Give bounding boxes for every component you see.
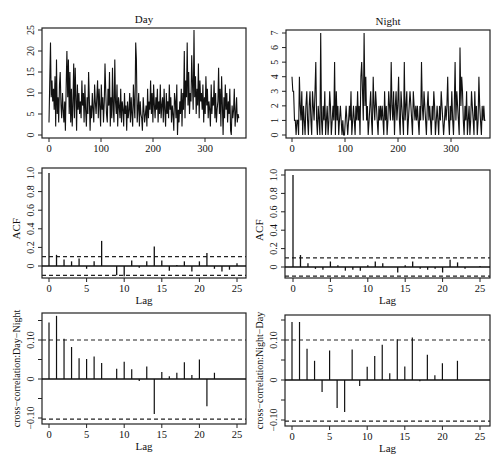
y-axis-label: cross−correlation:Day−Night: [11, 310, 22, 428]
x-tick-label: 10: [362, 431, 373, 442]
x-axis-label: Lag: [135, 440, 153, 452]
y-axis-label: cross−correlation:Night−Day: [254, 312, 265, 429]
y-tick-label: 0: [268, 265, 279, 270]
y-tick-label: 0.6: [25, 204, 36, 217]
x-axis-label: Lag: [379, 442, 397, 454]
series-line: [49, 30, 239, 135]
x-tick-label: 15: [157, 429, 168, 440]
y-tick-label: 0.8: [268, 187, 279, 200]
y-tick-label: 1: [269, 118, 280, 123]
x-tick-label: 300: [197, 143, 213, 154]
y-tick-label: 25: [25, 25, 36, 35]
y-tick-label: 0.4: [268, 224, 279, 237]
x-tick-label: 300: [443, 143, 459, 154]
y-tick-label: 0: [25, 377, 36, 382]
y-tick-label: 0: [268, 378, 279, 383]
ccf-night-day-panel: 0510152025−0.1000.10Lagcross−correlation…: [254, 312, 490, 454]
y-tick-label: 0.10: [25, 331, 36, 349]
y-tick-label: 5: [25, 112, 36, 117]
x-tick-label: 10: [119, 429, 130, 440]
x-tick-label: 0: [289, 431, 294, 442]
x-axis-label: Lag: [135, 294, 153, 306]
series-line: [292, 33, 485, 135]
y-axis-label: ACF: [253, 219, 265, 240]
x-tick-label: 20: [194, 429, 205, 440]
y-tick-label: 20: [25, 46, 36, 56]
panel-title: Day: [135, 13, 154, 25]
y-tick-label: 6: [269, 45, 280, 50]
x-tick-label: 0: [46, 429, 51, 440]
x-tick-label: 100: [337, 143, 353, 154]
y-tick-label: 0.2: [25, 241, 36, 254]
x-tick-label: 5: [84, 429, 89, 440]
y-tick-label: 5: [269, 60, 280, 65]
y-axis-label: ACF: [10, 218, 22, 239]
x-tick-label: 25: [475, 431, 486, 442]
x-tick-label: 10: [119, 283, 130, 294]
x-tick-label: 100: [93, 143, 109, 154]
y-tick-label: 1.0: [268, 169, 279, 182]
panel-title: Night: [375, 15, 400, 27]
y-tick-label: 0.6: [268, 206, 279, 219]
x-axis-label: Lag: [379, 294, 397, 306]
y-tick-label: 0.8: [25, 185, 36, 198]
x-tick-label: 200: [145, 143, 161, 154]
acf-night-panel: 051015202500.20.40.60.81.0LagACF: [253, 169, 490, 306]
y-tick-label: 2: [269, 103, 280, 108]
plot-frame: [42, 313, 246, 424]
plot-frame: [42, 168, 246, 278]
x-tick-label: 5: [328, 283, 333, 294]
x-tick-label: 200: [390, 143, 406, 154]
y-tick-label: 4: [269, 74, 280, 79]
x-tick-label: 15: [400, 431, 411, 442]
x-tick-label: 25: [232, 283, 243, 294]
acf-day-panel: 051015202500.20.40.60.81.0LagACF: [10, 167, 246, 306]
y-tick-label: 0.4: [25, 223, 36, 236]
day-series-panel: Day01002003000510152025: [25, 13, 246, 154]
x-tick-label: 0: [290, 283, 295, 294]
plot-frame: [285, 170, 490, 278]
x-tick-label: 5: [327, 431, 332, 442]
x-tick-label: 20: [437, 431, 448, 442]
y-tick-label: 0: [25, 133, 36, 138]
x-tick-label: 25: [475, 283, 486, 294]
x-tick-label: 0: [46, 283, 51, 294]
x-tick-label: 5: [84, 283, 89, 294]
y-tick-label: 15: [25, 67, 36, 77]
x-tick-label: 25: [232, 429, 243, 440]
y-tick-label: 1.0: [25, 167, 36, 180]
x-tick-label: 15: [157, 283, 168, 294]
ccf-day-night-panel: 0510152025−0.1000.10Lagcross−correlation…: [11, 310, 246, 452]
y-tick-label: −0.10: [268, 408, 279, 431]
y-tick-label: −0.10: [25, 406, 36, 429]
y-tick-label: 0: [269, 133, 280, 138]
night-series-panel: Night010020030001234567: [269, 15, 490, 154]
x-tick-label: 0: [289, 143, 294, 154]
y-tick-label: 0: [25, 264, 36, 269]
y-tick-label: 0.10: [268, 331, 279, 349]
x-tick-label: 20: [437, 283, 448, 294]
y-tick-label: 7: [269, 31, 280, 36]
x-tick-label: 20: [194, 283, 205, 294]
figure: Day01002003000510152025 Night01002003000…: [0, 0, 499, 465]
x-tick-label: 15: [400, 283, 411, 294]
x-tick-label: 10: [363, 283, 374, 294]
y-tick-label: 10: [25, 88, 36, 98]
x-tick-label: 0: [46, 143, 51, 154]
y-tick-label: 0.2: [268, 242, 279, 255]
plot-frame: [285, 315, 490, 426]
y-tick-label: 3: [269, 89, 280, 94]
